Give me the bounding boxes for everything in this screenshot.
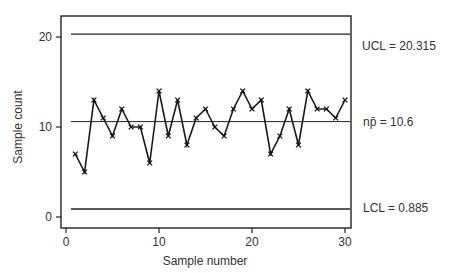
x-axis-label: Sample number bbox=[163, 254, 248, 268]
x-tick-label: 20 bbox=[245, 235, 259, 249]
ucl-label: UCL = 20.315 bbox=[362, 39, 436, 53]
x-tick-label: 0 bbox=[63, 235, 70, 249]
y-tick-label: 0 bbox=[45, 210, 52, 224]
control-limit-lines bbox=[71, 34, 350, 209]
x-tick-label: 10 bbox=[152, 235, 166, 249]
data-series bbox=[73, 89, 348, 175]
y-tick-label: 10 bbox=[39, 120, 53, 134]
y-tick-label: 20 bbox=[39, 30, 53, 44]
axes: 010200102030 bbox=[39, 30, 352, 249]
y-axis-label: Sample count bbox=[11, 90, 25, 164]
np-control-chart: 010200102030 Sample number Sample count … bbox=[0, 0, 450, 273]
x-tick-label: 30 bbox=[338, 235, 352, 249]
series-line bbox=[75, 91, 345, 172]
center-line-label: np̄ = 10.6 bbox=[363, 115, 414, 129]
lcl-label: LCL = 0.885 bbox=[363, 201, 429, 215]
